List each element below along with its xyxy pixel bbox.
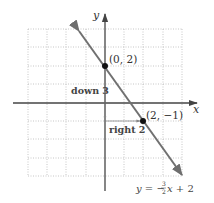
- svg-text:y = −: y = −: [135, 183, 165, 194]
- point-2-neg1-label: (2, −1): [146, 109, 183, 121]
- svg-text:x + 2: x + 2: [167, 183, 194, 194]
- y-axis-label: y: [92, 9, 100, 22]
- point-0-2: [102, 63, 108, 69]
- point-0-2-label: (0, 2): [109, 53, 137, 65]
- eq-numerator: 3: [162, 180, 166, 187]
- coordinate-graph: x y (0, 2) (2, −1) down 3 right 2 y = − …: [0, 0, 214, 203]
- eq-denominator: 2: [162, 188, 166, 195]
- equation-label: y = − 3 2 x + 2: [135, 180, 194, 195]
- right-2-label: right 2: [109, 124, 145, 135]
- down-3-label: down 3: [71, 85, 109, 96]
- x-axis-label: x: [193, 103, 200, 116]
